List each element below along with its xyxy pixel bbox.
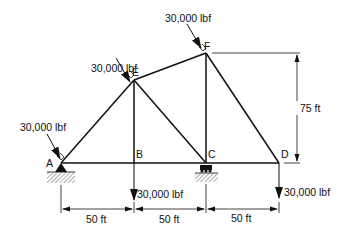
- node-labels: A B C D E F: [46, 40, 289, 169]
- member-EC: [134, 80, 206, 163]
- member-FD: [206, 53, 279, 163]
- node-label-C: C: [208, 148, 216, 160]
- node-label-B: B: [136, 148, 143, 160]
- load-label-E: 30,000 lbf: [91, 62, 137, 74]
- load-label-B: 30,000 lbf: [137, 188, 183, 200]
- node-label-D: D: [281, 148, 289, 160]
- node-label-F: F: [204, 40, 210, 52]
- member-AE: [61, 80, 134, 163]
- load-label-D: 30,000 lbf: [284, 186, 330, 198]
- span-label-AB: 50 ft: [86, 213, 107, 225]
- load-label-A: 30,000 lbf: [20, 121, 66, 133]
- load-E: 30,000 lbf: [91, 58, 137, 82]
- span-label-CD: 50 ft: [231, 212, 252, 224]
- member-EF: [134, 53, 206, 80]
- load-B: 30,000 lbf: [134, 163, 183, 200]
- load-D: 30,000 lbf: [279, 163, 330, 198]
- roller-support-C: [195, 165, 218, 182]
- span-label-BC: 50 ft: [159, 213, 180, 225]
- node-label-A: A: [46, 157, 53, 169]
- load-A: 30,000 lbf: [20, 121, 66, 158]
- height-dimension: 75 ft: [212, 53, 321, 163]
- node-label-E: E: [132, 66, 139, 78]
- load-label-F: 30,000 lbf: [165, 12, 211, 24]
- height-dimension-label: 75 ft: [300, 102, 321, 114]
- truss-diagram: 30,000 lbf 30,000 lbf 30,000 lbf 30,000 …: [0, 0, 350, 238]
